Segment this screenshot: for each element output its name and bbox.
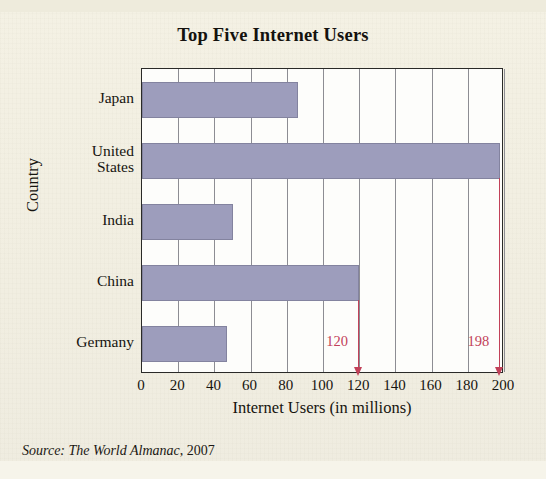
annotation-label: 198 [467, 333, 489, 350]
x-tick-label: 40 [206, 377, 221, 394]
x-tick-label: 100 [311, 377, 334, 394]
bar [142, 82, 298, 118]
x-tick-label: 200 [492, 377, 515, 394]
x-tick-label: 0 [137, 377, 145, 394]
source-colon: : [60, 443, 68, 458]
bar [142, 326, 227, 362]
plot-area [141, 68, 503, 373]
bar-row [142, 313, 502, 374]
x-tick-label: 120 [347, 377, 370, 394]
page-top-band [0, 0, 546, 12]
bar [142, 204, 233, 240]
y-tick-label: Germany [76, 334, 134, 351]
y-axis-tick-labels: JapanUnited StatesIndiaChinaGermany [52, 68, 134, 373]
annotation-label: 120 [326, 333, 348, 350]
x-tick-label: 180 [456, 377, 479, 394]
y-axis-title: Country [23, 110, 43, 260]
bars-layer [142, 69, 502, 372]
x-tick-label: 80 [278, 377, 293, 394]
annotation-arrowhead [495, 367, 503, 376]
bar [142, 143, 500, 179]
x-tick-label: 20 [170, 377, 185, 394]
annotation-line [358, 300, 359, 369]
source-year: , 2007 [180, 443, 215, 458]
bar-row [142, 69, 502, 130]
annotation-arrowhead [354, 367, 362, 376]
bar [142, 265, 359, 301]
x-tick-label: 140 [383, 377, 406, 394]
page-bottom-band [0, 461, 546, 479]
bar-row [142, 191, 502, 252]
figure-page: Top Five Internet Users 120198 JapanUnit… [0, 0, 546, 479]
y-tick-label: United States [92, 143, 134, 176]
bar-row [142, 130, 502, 191]
y-tick-label: Japan [99, 90, 134, 107]
annotation-line [499, 178, 500, 369]
bar-row [142, 252, 502, 313]
source-label: Source [22, 443, 60, 458]
gridline [504, 69, 505, 372]
y-tick-label: India [102, 212, 134, 229]
x-axis-title: Internet Users (in millions) [141, 398, 503, 418]
source-work: The World Almanac [69, 443, 180, 458]
source-note: Source: The World Almanac, 2007 [22, 443, 215, 459]
chart-title: Top Five Internet Users [0, 25, 546, 46]
y-tick-label: China [97, 273, 134, 290]
x-tick-label: 60 [242, 377, 257, 394]
x-axis-tick-labels: 020406080100120140160180200 [141, 377, 503, 397]
x-tick-label: 160 [419, 377, 442, 394]
